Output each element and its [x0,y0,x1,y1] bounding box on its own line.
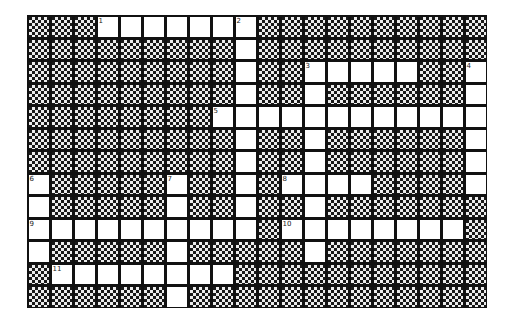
crossword-cell[interactable] [213,220,233,240]
crossword-cell[interactable] [190,220,210,240]
crossword-cell[interactable] [190,17,210,37]
crossword-cell[interactable]: 6 [29,175,49,195]
crossword-cell[interactable] [121,220,141,240]
crossword-cell[interactable] [397,107,417,127]
crossword-cell[interactable] [144,17,164,37]
blocked-cell [443,265,463,285]
crossword-cell[interactable] [374,220,394,240]
crossword-cell[interactable] [236,107,256,127]
crossword-cell[interactable] [259,107,279,127]
crossword-cell[interactable] [98,220,118,240]
crossword-cell[interactable] [236,152,256,172]
crossword-cell[interactable] [236,197,256,217]
blocked-cell [397,85,417,105]
blocked-cell [98,130,118,150]
blocked-cell [420,197,440,217]
crossword-cell[interactable] [305,197,325,217]
blocked-cell [144,152,164,172]
blocked-cell [259,85,279,105]
blocked-cell [443,85,463,105]
crossword-cell[interactable] [443,220,463,240]
blocked-cell [282,242,302,262]
blocked-cell [144,107,164,127]
blocked-cell [52,130,72,150]
crossword-cell[interactable] [328,175,348,195]
crossword-cell[interactable]: 5 [213,107,233,127]
crossword-cell[interactable] [98,265,118,285]
crossword-cell[interactable] [236,175,256,195]
crossword-cell[interactable] [351,175,371,195]
clue-number: 10 [283,220,292,228]
crossword-cell[interactable] [29,242,49,262]
blocked-cell [29,40,49,60]
crossword-cell[interactable] [374,62,394,82]
crossword-cell[interactable] [167,197,187,217]
crossword-cell[interactable]: 10 [282,220,302,240]
crossword-cell[interactable] [167,17,187,37]
crossword-cell[interactable] [466,175,486,195]
crossword-cell[interactable] [466,107,486,127]
crossword-cell[interactable]: 2 [236,17,256,37]
crossword-cell[interactable] [305,242,325,262]
crossword-cell[interactable] [305,152,325,172]
blocked-cell [374,175,394,195]
crossword-cell[interactable] [121,265,141,285]
blocked-cell [328,130,348,150]
crossword-cell[interactable] [351,62,371,82]
crossword-cell[interactable] [167,220,187,240]
crossword-cell[interactable]: 1 [98,17,118,37]
crossword-cell[interactable] [397,62,417,82]
blocked-cell [259,265,279,285]
crossword-cell[interactable]: 11 [52,265,72,285]
crossword-cell[interactable] [397,220,417,240]
crossword-cell[interactable] [420,107,440,127]
crossword-cell[interactable] [236,85,256,105]
crossword-cell[interactable]: 9 [29,220,49,240]
crossword-cell[interactable] [420,220,440,240]
crossword-cell[interactable] [466,152,486,172]
crossword-cell[interactable] [29,197,49,217]
crossword-cell[interactable] [466,130,486,150]
crossword-cell[interactable] [75,265,95,285]
crossword-cell[interactable] [328,107,348,127]
crossword-cell[interactable] [236,130,256,150]
crossword-cell[interactable] [167,265,187,285]
crossword-cell[interactable] [328,220,348,240]
crossword-cell[interactable] [351,220,371,240]
blocked-cell [328,265,348,285]
crossword-cell[interactable] [305,175,325,195]
crossword-cell[interactable]: 7 [167,175,187,195]
crossword-cell[interactable] [167,242,187,262]
crossword-cell[interactable]: 3 [305,62,325,82]
crossword-cell[interactable] [305,130,325,150]
crossword-cell[interactable] [282,107,302,127]
crossword-cell[interactable] [466,85,486,105]
crossword-cell[interactable] [52,220,72,240]
crossword-cell[interactable] [121,17,141,37]
crossword-cell[interactable] [75,220,95,240]
blocked-cell [305,40,325,60]
crossword-cell[interactable] [236,62,256,82]
blocked-cell [213,287,233,307]
crossword-cell[interactable] [305,107,325,127]
crossword-cell[interactable] [236,40,256,60]
crossword-cell[interactable] [190,265,210,285]
crossword-cell[interactable] [213,265,233,285]
blocked-cell [52,85,72,105]
blocked-cell [443,175,463,195]
crossword-cell[interactable] [236,220,256,240]
crossword-cell[interactable] [351,107,371,127]
crossword-cell[interactable] [374,107,394,127]
blocked-cell [443,130,463,150]
crossword-cell[interactable] [144,265,164,285]
crossword-cell[interactable] [167,287,187,307]
crossword-cell[interactable] [328,62,348,82]
crossword-cell[interactable]: 4 [466,62,486,82]
crossword-cell[interactable] [305,220,325,240]
crossword-cell[interactable]: 8 [282,175,302,195]
blocked-cell [190,197,210,217]
crossword-cell[interactable] [443,107,463,127]
crossword-cell[interactable] [305,85,325,105]
crossword-cell[interactable] [144,220,164,240]
crossword-cell[interactable] [213,17,233,37]
